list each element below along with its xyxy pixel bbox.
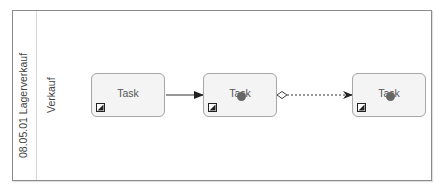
manual-task-icon: [208, 103, 217, 112]
task-1[interactable]: Task: [91, 73, 165, 117]
task-3[interactable]: Task: [352, 73, 426, 117]
manual-task-icon: [96, 103, 105, 112]
task-2[interactable]: Task: [203, 73, 277, 117]
task-label: Task: [92, 87, 164, 99]
diamond-icon: [277, 92, 287, 99]
manual-task-icon: [357, 103, 366, 112]
status-dot-icon: [237, 92, 246, 101]
status-dot-icon: [386, 92, 395, 101]
